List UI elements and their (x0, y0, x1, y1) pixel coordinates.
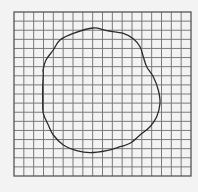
grid-diagram (0, 0, 198, 192)
